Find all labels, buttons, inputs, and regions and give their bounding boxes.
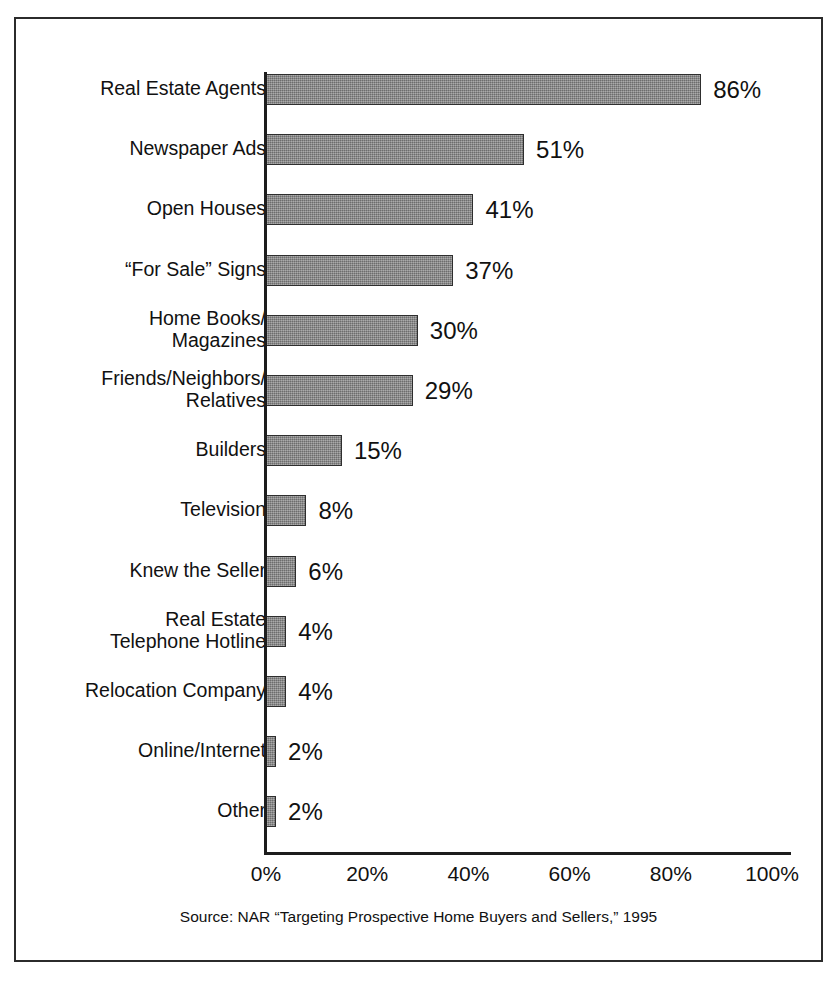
source-note: Source: NAR “Targeting Prospective Home …: [14, 908, 823, 926]
chart-frame: [14, 17, 823, 962]
